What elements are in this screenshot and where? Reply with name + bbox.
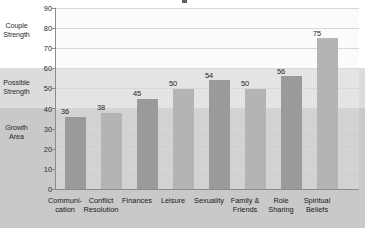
bar-value-finances: 45 (120, 89, 154, 98)
bar-value-conflict-resolution: 38 (84, 103, 118, 112)
y-tick-label-70: 70 (32, 44, 52, 53)
gridline-50 (56, 88, 359, 89)
y-tick-label-90: 90 (32, 4, 52, 13)
bar-value-role-sharing: 56 (264, 67, 298, 76)
y-tick-mark-0 (52, 189, 55, 190)
gridline-70 (56, 48, 359, 49)
band-label-possible-strength: Possible Strength (0, 79, 33, 96)
x-axis-line (55, 189, 359, 190)
band-label-couple-strength-line2: Strength (0, 31, 33, 40)
bar-value-family-friends: 50 (228, 79, 262, 88)
band-label-possible-strength-line2: Strength (0, 88, 33, 97)
y-tick-label-50: 50 (32, 84, 52, 93)
y-tick-label-30: 30 (32, 125, 52, 134)
y-tick-mark-20 (52, 149, 55, 150)
band-label-couple-strength: Couple Strength (0, 22, 33, 39)
y-tick-mark-50 (52, 88, 55, 89)
bar-value-communication: 36 (48, 107, 82, 116)
y-axis-line (55, 8, 56, 190)
bar-family-friends (245, 89, 266, 190)
gridline-60 (56, 68, 359, 69)
y-tick-mark-90 (52, 8, 55, 9)
crop-artifact-mark (182, 0, 187, 3)
band-label-growth-area-line2: Area (0, 133, 33, 142)
bar-leisure (173, 89, 194, 190)
y-tick-mark-30 (52, 129, 55, 130)
bar-conflict-resolution (101, 113, 122, 189)
bar-chart: Couple Strength Possible Strength Growth… (0, 0, 365, 228)
x-category-label-spiritual-beliefs-line2: Beliefs (294, 205, 340, 214)
y-tick-mark-60 (52, 68, 55, 69)
y-tick-label-60: 60 (32, 64, 52, 73)
y-tick-label-20: 20 (32, 145, 52, 154)
band-label-growth-area: Growth Area (0, 124, 33, 141)
bar-sexuality (209, 80, 230, 189)
x-category-label-conflict-resolution-line2: Resolution (78, 205, 124, 214)
y-tick-label-10: 10 (32, 165, 52, 174)
bar-communication (65, 117, 86, 189)
y-tick-mark-70 (52, 48, 55, 49)
y-tick-mark-80 (52, 28, 55, 29)
y-tick-label-80: 80 (32, 24, 52, 33)
bar-value-leisure: 50 (156, 79, 190, 88)
bar-value-spiritual-beliefs: 75 (300, 29, 334, 38)
y-tick-mark-10 (52, 169, 55, 170)
gridline-90 (56, 8, 359, 9)
bar-finances (137, 99, 158, 190)
bar-value-sexuality: 54 (192, 71, 226, 80)
x-category-label-spiritual-beliefs: Spiritual Beliefs (294, 196, 340, 215)
bar-role-sharing (281, 76, 302, 189)
bar-spiritual-beliefs (317, 38, 338, 189)
y-tick-label-0: 0 (32, 185, 52, 194)
x-category-label-spiritual-beliefs-line1: Spiritual (294, 196, 340, 205)
